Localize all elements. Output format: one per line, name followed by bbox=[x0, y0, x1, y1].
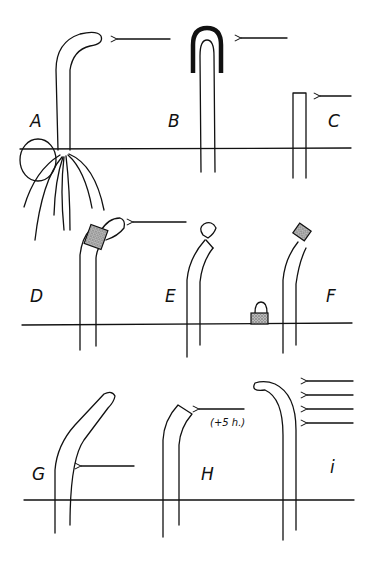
label-d: D bbox=[30, 288, 43, 305]
panel-a-seedling bbox=[20, 32, 104, 240]
panel-h-coleoptile bbox=[163, 405, 192, 537]
label-h: H bbox=[201, 466, 214, 483]
label-b: B bbox=[168, 113, 180, 130]
panel-c-decapitated bbox=[293, 93, 306, 178]
agar-block-on-tip bbox=[293, 223, 311, 241]
label-g: G bbox=[32, 466, 45, 483]
time-note-h: (+5 h.) bbox=[210, 418, 245, 428]
panel-e-coleoptile bbox=[187, 223, 216, 357]
label-f: F bbox=[326, 288, 336, 305]
label-a: A bbox=[30, 113, 42, 130]
label-i: i bbox=[330, 459, 335, 476]
panel-f-coleoptile bbox=[283, 223, 311, 353]
light-arrows-i bbox=[307, 381, 353, 423]
panel-i-coleoptile bbox=[254, 382, 296, 540]
panel-d-coleoptile bbox=[80, 218, 125, 350]
label-e: E bbox=[165, 288, 176, 305]
phototropism-diagram bbox=[0, 0, 374, 567]
panel-b-coleoptile bbox=[193, 28, 221, 172]
agar-block-on-ground bbox=[251, 302, 268, 324]
panel-g-coleoptile bbox=[55, 392, 115, 533]
stippled-band bbox=[84, 225, 108, 250]
label-c: C bbox=[328, 113, 340, 130]
opaque-cap bbox=[193, 28, 221, 73]
